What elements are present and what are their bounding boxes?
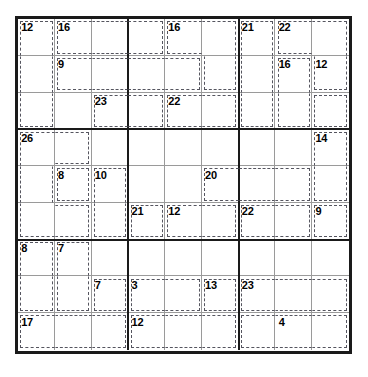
cage-sum-label: 4 — [279, 317, 285, 328]
sudoku-cell-r8c8[interactable] — [275, 276, 312, 313]
sudoku-cell-r4c8[interactable] — [275, 129, 312, 166]
sudoku-cell-r4c6[interactable] — [202, 129, 239, 166]
cage-sum-label: 9 — [315, 206, 321, 217]
box-divider-vertical-1 — [127, 19, 129, 350]
sudoku-cell-r9c9[interactable] — [312, 313, 349, 350]
cage-sum-label: 13 — [205, 280, 217, 291]
cage-sum-label: 7 — [58, 243, 64, 254]
sudoku-cell-r3c6[interactable] — [202, 93, 239, 130]
cage-sum-label: 20 — [205, 170, 217, 181]
sudoku-cell-r2c7[interactable] — [239, 56, 276, 93]
sudoku-cell-r2c1[interactable] — [18, 56, 55, 93]
sudoku-cell-r3c9[interactable] — [312, 93, 349, 130]
sudoku-cell-r9c7[interactable] — [239, 313, 276, 350]
sudoku-cell-r7c7[interactable] — [239, 240, 276, 277]
sudoku-cell-r4c5[interactable] — [165, 129, 202, 166]
sudoku-cell-r1c3[interactable] — [92, 19, 129, 56]
sudoku-grid[interactable]: 1216162122916122322261481020211222987731… — [15, 16, 352, 354]
cage-sum-label: 14 — [315, 133, 327, 144]
cage-sum-label: 16 — [168, 22, 180, 33]
cage-sum-label: 16 — [58, 22, 70, 33]
sudoku-cell-r4c3[interactable] — [92, 129, 129, 166]
cage-sum-label: 23 — [95, 96, 107, 107]
cage-sum-label: 22 — [279, 22, 291, 33]
sudoku-cell-r8c2[interactable] — [55, 276, 92, 313]
cage-sum-label: 12 — [315, 59, 327, 70]
sudoku-cell-r6c6[interactable] — [202, 203, 239, 240]
sudoku-cell-r9c3[interactable] — [92, 313, 129, 350]
cage-sum-label: 9 — [58, 59, 64, 70]
sudoku-cell-r8c1[interactable] — [18, 276, 55, 313]
sudoku-cell-r2c3[interactable] — [92, 56, 129, 93]
sudoku-cell-r5c1[interactable] — [18, 166, 55, 203]
sudoku-cell-r3c1[interactable] — [18, 93, 55, 130]
sudoku-cell-r4c2[interactable] — [55, 129, 92, 166]
sudoku-cell-r3c8[interactable] — [275, 93, 312, 130]
sudoku-cell-r8c9[interactable] — [312, 276, 349, 313]
cage-sum-label: 3 — [132, 280, 138, 291]
sudoku-cell-r1c6[interactable] — [202, 19, 239, 56]
sudoku-cell-r7c6[interactable] — [202, 240, 239, 277]
cage-sum-label: 21 — [242, 22, 254, 33]
sudoku-cell-r5c9[interactable] — [312, 166, 349, 203]
cage-sum-label: 8 — [58, 170, 64, 181]
killer-sudoku-puzzle: 1216162122916122322261481020211222987731… — [0, 0, 368, 377]
cage-sum-label: 12 — [132, 317, 144, 328]
sudoku-cell-r6c8[interactable] — [275, 203, 312, 240]
sudoku-cell-r2c6[interactable] — [202, 56, 239, 93]
sudoku-cell-r6c2[interactable] — [55, 203, 92, 240]
sudoku-cell-r8c5[interactable] — [165, 276, 202, 313]
sudoku-cell-r4c4[interactable] — [128, 129, 165, 166]
sudoku-cell-r2c4[interactable] — [128, 56, 165, 93]
cage-sum-label: 17 — [21, 317, 33, 328]
cage-sum-label: 7 — [95, 280, 101, 291]
cage-sum-label: 21 — [132, 206, 144, 217]
sudoku-cell-r5c5[interactable] — [165, 166, 202, 203]
sudoku-cell-r6c1[interactable] — [18, 203, 55, 240]
sudoku-cell-r9c5[interactable] — [165, 313, 202, 350]
sudoku-cell-r7c5[interactable] — [165, 240, 202, 277]
sudoku-cell-r7c9[interactable] — [312, 240, 349, 277]
box-divider-horizontal-1 — [18, 128, 349, 130]
sudoku-cell-r2c5[interactable] — [165, 56, 202, 93]
cage-sum-label: 22 — [168, 96, 180, 107]
sudoku-cell-r9c6[interactable] — [202, 313, 239, 350]
sudoku-cell-r3c4[interactable] — [128, 93, 165, 130]
sudoku-cell-r3c2[interactable] — [55, 93, 92, 130]
cage-sum-label: 12 — [21, 22, 33, 33]
cage-sum-label: 10 — [95, 170, 107, 181]
box-divider-horizontal-2 — [18, 239, 349, 241]
sudoku-cell-r5c4[interactable] — [128, 166, 165, 203]
cage-sum-label: 12 — [168, 206, 180, 217]
cage-sum-label: 22 — [242, 206, 254, 217]
cage-sum-label: 26 — [21, 133, 33, 144]
sudoku-cell-r7c3[interactable] — [92, 240, 129, 277]
sudoku-cell-r1c4[interactable] — [128, 19, 165, 56]
sudoku-cell-r1c9[interactable] — [312, 19, 349, 56]
sudoku-cell-r7c4[interactable] — [128, 240, 165, 277]
sudoku-cell-r9c2[interactable] — [55, 313, 92, 350]
sudoku-cell-r5c8[interactable] — [275, 166, 312, 203]
sudoku-cell-r5c7[interactable] — [239, 166, 276, 203]
sudoku-cell-r3c7[interactable] — [239, 93, 276, 130]
cage-sum-label: 8 — [21, 243, 27, 254]
sudoku-cell-r4c7[interactable] — [239, 129, 276, 166]
box-divider-vertical-2 — [238, 19, 240, 350]
cage-sum-label: 23 — [242, 280, 254, 291]
cage-sum-label: 16 — [279, 59, 291, 70]
sudoku-cell-r6c3[interactable] — [92, 203, 129, 240]
sudoku-cell-r7c8[interactable] — [275, 240, 312, 277]
